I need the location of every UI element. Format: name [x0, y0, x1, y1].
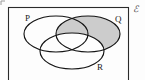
venn-diagram-canvas: P Q R ℰ	[0, 0, 145, 80]
set-label-q: Q	[115, 14, 122, 24]
set-label-p: P	[25, 13, 30, 23]
universal-set-symbol: ℰ	[133, 4, 140, 14]
corner-tick-mark	[1, 1, 5, 5]
set-label-r: R	[97, 62, 103, 72]
venn-diagram-figure: P Q R ℰ	[0, 0, 145, 80]
shaded-region-q-minus-r	[0, 0, 145, 80]
